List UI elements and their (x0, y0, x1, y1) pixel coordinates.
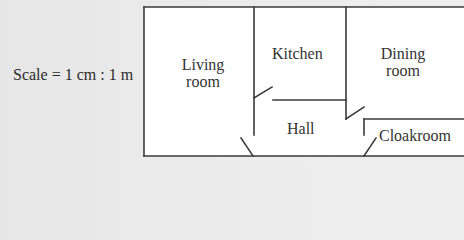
living-room-line1: Living (175, 56, 231, 73)
room-label-dining-room: Dining room (375, 45, 431, 79)
room-label-kitchen: Kitchen (272, 45, 334, 62)
room-label-living-room: Living room (175, 56, 231, 90)
living-room-line2: room (175, 73, 231, 90)
dining-room-line1: Dining (375, 45, 431, 62)
scale-label: Scale = 1 cm : 1 m (13, 66, 133, 84)
room-label-hall: Hall (287, 120, 327, 137)
dining-room-line2: room (375, 62, 431, 79)
room-label-cloakroom: Cloakroom (379, 127, 463, 144)
